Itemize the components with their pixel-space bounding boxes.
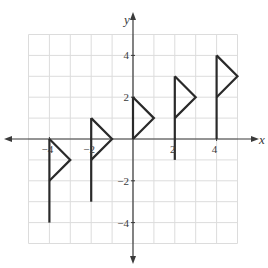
y-tick-label: 2 bbox=[124, 91, 130, 103]
y-axis-up-arrow-icon bbox=[130, 12, 136, 20]
y-tick-label: 4 bbox=[124, 49, 130, 61]
x-axis-left-arrow-icon bbox=[4, 136, 12, 142]
x-tick-label: 2 bbox=[170, 143, 176, 155]
y-axis-label: y bbox=[122, 12, 130, 27]
x-tick-label: 4 bbox=[212, 143, 218, 155]
x-tick-label: −4 bbox=[42, 143, 54, 155]
x-axis-right-arrow-icon bbox=[251, 136, 259, 142]
y-tick-label: −2 bbox=[117, 175, 129, 187]
coordinate-plane: −4−22442−2−4xy bbox=[0, 0, 268, 268]
y-tick-label: −4 bbox=[117, 217, 129, 229]
axes bbox=[4, 12, 259, 264]
x-tick-label: −2 bbox=[83, 143, 95, 155]
y-axis-down-arrow-icon bbox=[130, 256, 136, 264]
axis-labels: −4−22442−2−4xy bbox=[42, 12, 266, 229]
x-axis-label: x bbox=[258, 132, 265, 147]
